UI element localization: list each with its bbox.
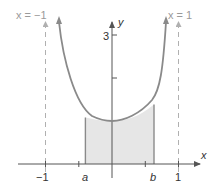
y-axis-label: y bbox=[117, 16, 125, 28]
bound-label-a: a bbox=[82, 171, 88, 183]
y-tick-label-3: 3 bbox=[103, 30, 109, 42]
x-axis-label: x bbox=[200, 149, 207, 161]
x-tick-label--1: −1 bbox=[36, 171, 49, 183]
asymptote-left-label: x = −1 bbox=[16, 9, 47, 21]
x-tick-label-1: 1 bbox=[175, 171, 181, 183]
shaded-region bbox=[85, 105, 154, 165]
asymptote-right-label: x = 1 bbox=[168, 9, 192, 21]
bound-label-b: b bbox=[150, 171, 156, 183]
curve-arrow-left bbox=[56, 16, 62, 24]
graph-canvas: x = −1 x = 1 y x 3 −1 1 a b bbox=[0, 0, 216, 188]
